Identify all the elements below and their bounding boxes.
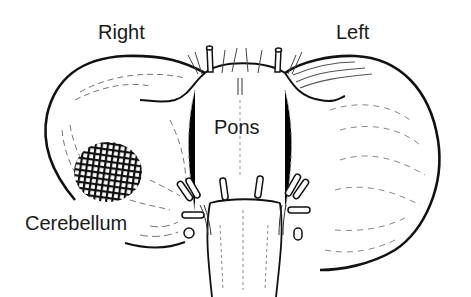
label-pons: Pons [214, 117, 260, 137]
cerebellum-pons-diagram: Right Left Pons Cerebellum [0, 0, 471, 297]
medulla-and-cranial-nerves [176, 173, 310, 297]
label-cerebellum: Cerebellum [25, 213, 127, 233]
anatomy-illustration [0, 0, 471, 297]
lesion-crosshatch [74, 142, 142, 202]
label-left: Left [336, 22, 369, 42]
label-right: Right [98, 22, 145, 42]
left-cerebellar-hemisphere [285, 56, 439, 270]
